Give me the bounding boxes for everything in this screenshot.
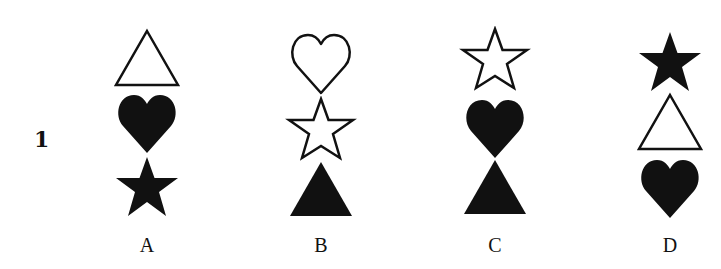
triangle-outline-icon xyxy=(102,26,192,92)
option-b[interactable]: B xyxy=(276,0,366,269)
option-c[interactable]: C xyxy=(450,0,540,269)
option-d[interactable]: D xyxy=(625,0,715,269)
heart-filled-icon xyxy=(102,90,192,156)
heart-filled-icon xyxy=(450,95,540,161)
triangle-filled-icon xyxy=(450,155,540,221)
option-a[interactable]: A xyxy=(102,0,192,269)
option-label: B xyxy=(276,234,366,257)
option-label: D xyxy=(625,234,715,257)
triangle-filled-icon xyxy=(276,157,366,223)
question-number: 1 xyxy=(34,126,49,152)
option-label: C xyxy=(450,234,540,257)
star-filled-icon xyxy=(102,154,192,220)
heart-filled-icon xyxy=(625,155,715,221)
triangle-outline-icon xyxy=(625,90,715,156)
option-label: A xyxy=(102,234,192,257)
star-filled-icon xyxy=(625,29,715,95)
star-outline-icon xyxy=(276,96,366,162)
star-outline-icon xyxy=(450,26,540,92)
heart-outline-icon xyxy=(276,30,366,96)
